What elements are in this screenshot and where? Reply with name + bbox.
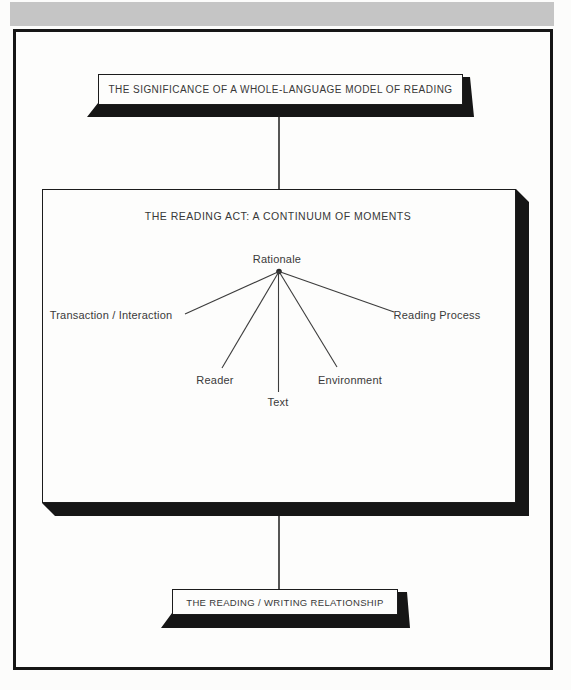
figure-page: THE SIGNIFICANCE OF A WHOLE-LANGUAGE MOD… xyxy=(0,0,571,690)
spoke-label-environment: Environment xyxy=(318,374,382,386)
bottom-box-label: THE READING / WRITING RELATIONSHIP xyxy=(186,597,384,608)
top-box-label: THE SIGNIFICANCE OF A WHOLE-LANGUAGE MOD… xyxy=(108,84,452,95)
middle-box xyxy=(42,189,516,503)
spoke-label-transaction-interaction: Transaction / Interaction xyxy=(50,309,173,321)
top-gray-band xyxy=(10,2,554,26)
spoke-label-text: Text xyxy=(268,396,289,408)
hub-label-rationale: Rationale xyxy=(253,253,301,265)
spoke-label-reading-process: Reading Process xyxy=(394,309,481,321)
spoke-label-reader: Reader xyxy=(196,374,233,386)
top-box: THE SIGNIFICANCE OF A WHOLE-LANGUAGE MOD… xyxy=(98,74,463,105)
bottom-box: THE READING / WRITING RELATIONSHIP xyxy=(172,589,398,615)
middle-box-title: THE READING ACT: A CONTINUUM OF MOMENTS xyxy=(145,210,411,222)
